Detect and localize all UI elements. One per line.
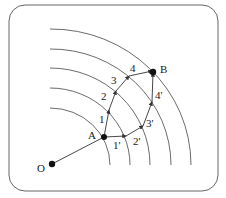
- ray-o-a: [52, 137, 104, 164]
- label-4: 4: [130, 62, 136, 74]
- point-o-dot: [49, 161, 55, 167]
- wavefront-diagram: O A B 1 2 3 4 1' 2' 3' 4': [0, 0, 226, 198]
- label-3: 3: [111, 74, 117, 86]
- label-a: A: [88, 129, 96, 141]
- label-b: B: [160, 63, 167, 75]
- wavefront-arcs: [50, 29, 191, 165]
- point-b-dot: [150, 69, 156, 75]
- label-2: 2: [101, 90, 107, 102]
- label-2-prime: 2': [133, 135, 141, 147]
- label-o: O: [37, 162, 45, 174]
- label-3-prime: 3': [146, 117, 154, 129]
- point-a-dot: [101, 134, 107, 140]
- label-4-prime: 4': [155, 89, 163, 101]
- label-1: 1: [99, 113, 105, 125]
- label-1-prime: 1': [113, 139, 121, 151]
